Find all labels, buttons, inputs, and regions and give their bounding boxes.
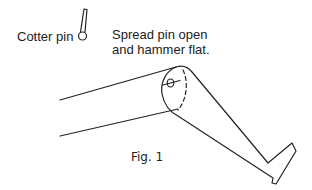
cotter-pin-label: Cotter pin (17, 29, 73, 44)
figure-caption: Fig. 1 (131, 150, 163, 165)
diagram-figure: Cotter pin Spread pin open and hammer fl… (0, 0, 312, 190)
instruction-line-2: and hammer flat. (112, 42, 210, 57)
hinge-pin-icon (163, 79, 180, 87)
bar-outline (60, 67, 178, 136)
hidden-edge-dashed (178, 70, 186, 110)
cotter-pin-icon (79, 9, 88, 40)
instruction-line-1: Spread pin open (112, 27, 210, 42)
arm-outline (162, 66, 296, 184)
instruction-label: Spread pin open and hammer flat. (112, 27, 210, 57)
